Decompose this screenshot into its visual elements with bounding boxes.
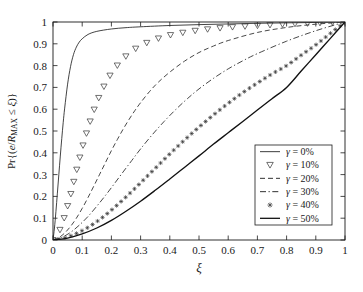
x-tick-label: 0.7 [251, 244, 265, 256]
y-axis-title-text: Pr{(e/RMAX ≤ ξ)} [5, 93, 19, 169]
marker-plus [141, 178, 145, 182]
marker-plus [273, 70, 277, 74]
chart-figure: 00.10.20.30.40.50.60.70.80.9100.10.20.30… [0, 0, 363, 292]
marker-plus [181, 140, 185, 144]
y-tick-label: 0.8 [33, 60, 47, 72]
marker-plus [258, 79, 262, 83]
marker-triangle-down [87, 119, 93, 124]
marker-plus [85, 226, 89, 230]
y-tick-label: 0.7 [33, 81, 47, 93]
legend-label-3: γ = 30% [286, 186, 319, 197]
marker-triangle-down [155, 36, 161, 41]
marker-plus [253, 83, 257, 87]
marker-plus [95, 219, 99, 223]
marker-plus [114, 203, 118, 207]
marker-plus [299, 53, 303, 57]
y-tick-label: 0 [42, 234, 48, 246]
marker-plus [137, 182, 141, 186]
marker-plus [314, 43, 318, 47]
marker-plus [163, 157, 167, 161]
marker-plus [128, 191, 132, 195]
marker-triangle-down [77, 155, 83, 160]
marker-plus [232, 97, 236, 101]
marker-plus [289, 60, 293, 64]
marker-plus [304, 50, 308, 54]
marker-plus [279, 67, 283, 71]
marker-plus [176, 144, 180, 148]
marker-triangle-down [96, 95, 102, 100]
marker-plus [237, 93, 241, 97]
y-tick-label: 0.5 [33, 125, 47, 137]
marker-triangle-down [217, 26, 223, 31]
marker-triangle-down [71, 179, 77, 184]
y-tick-label: 0.9 [33, 38, 47, 50]
marker-plus [203, 119, 207, 123]
x-tick-label: 0.1 [75, 244, 89, 256]
marker-plus [242, 89, 246, 93]
x-tick-label: 0 [50, 244, 56, 256]
marker-plus [284, 64, 288, 68]
marker-triangle-down [242, 24, 248, 29]
marker-plus [172, 148, 176, 152]
x-tick-label: 1 [342, 244, 348, 256]
marker-plus [294, 57, 298, 61]
marker-plus [263, 76, 267, 80]
marker-triangle-down [229, 25, 235, 30]
legend-label-1: γ = 10% [286, 159, 319, 170]
marker-triangle-down [68, 191, 74, 196]
marker-triangle-down [107, 73, 113, 78]
marker-triangle-down [123, 54, 129, 59]
marker-triangle-down [317, 20, 323, 25]
marker-plus [100, 215, 104, 219]
marker-plus [124, 195, 128, 199]
marker-triangle-down [180, 30, 186, 35]
marker-triangle-down [167, 33, 173, 38]
x-axis-title: ξ [196, 260, 202, 275]
legend-label-0: γ = 0% [286, 146, 314, 157]
legend: γ = 0%γ = 10%γ = 20%γ = 30%γ = 40%γ = 50… [255, 145, 332, 225]
marker-triangle-down [101, 84, 107, 89]
marker-plus [227, 100, 231, 104]
marker-plus [267, 202, 272, 207]
marker-triangle-down [61, 216, 67, 221]
marker-plus [194, 127, 198, 131]
marker-plus [190, 131, 194, 135]
marker-plus [324, 35, 328, 39]
legend-label-4: γ = 40% [286, 199, 319, 210]
marker-plus [268, 73, 272, 77]
marker-plus [328, 31, 332, 35]
y-axis-title: Pr{(e/RMAX ≤ ξ)} [5, 93, 19, 169]
marker-plus [154, 165, 158, 169]
marker-plus [213, 112, 217, 116]
marker-plus [145, 174, 149, 178]
marker-triangle-down [57, 227, 63, 232]
marker-triangle-down [91, 107, 97, 112]
marker-triangle-down [83, 131, 89, 136]
marker-plus [132, 187, 136, 191]
marker-plus [90, 222, 94, 226]
marker-triangle-down [133, 46, 139, 51]
y-tick-label: 1 [42, 16, 48, 28]
marker-triangle-down [204, 27, 210, 32]
y-tick-label: 0.6 [33, 103, 47, 115]
y-tick-label: 0.3 [33, 169, 47, 181]
marker-plus [105, 211, 109, 215]
legend-label-5: γ = 50% [286, 213, 319, 224]
marker-triangle-down [65, 204, 71, 209]
y-tick-label: 0.4 [33, 147, 47, 159]
x-tick-label: 0.9 [309, 244, 323, 256]
marker-plus [185, 136, 189, 140]
marker-plus [208, 115, 212, 119]
marker-plus [319, 39, 323, 43]
marker-plus [110, 208, 114, 212]
legend-label-2: γ = 20% [286, 173, 319, 184]
y-tick-label: 0.1 [33, 212, 47, 224]
marker-plus [247, 86, 251, 90]
y-tick-label: 0.2 [33, 190, 47, 202]
marker-triangle-down [74, 167, 80, 172]
x-tick-label: 0.4 [163, 244, 177, 256]
marker-triangle-down [144, 40, 150, 45]
marker-plus [119, 199, 123, 203]
x-tick-label: 0.5 [192, 244, 206, 256]
x-tick-label: 0.2 [105, 244, 119, 256]
